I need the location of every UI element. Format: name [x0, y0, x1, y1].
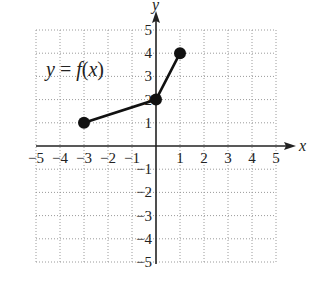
y-tick-label: 3 — [145, 68, 153, 84]
y-tick-label: 5 — [145, 22, 153, 38]
x-tick-label: −5 — [28, 150, 44, 166]
function-label: y = f(x) — [44, 58, 104, 81]
x-tick-label: −3 — [76, 150, 92, 166]
x-tick-label: 1 — [176, 150, 184, 166]
y-tick-label: −4 — [136, 231, 152, 247]
x-tick-label: −4 — [52, 150, 68, 166]
y-tick-label: −1 — [136, 161, 152, 177]
graph-figure: x y −5−4−3−2−112345 54321−1−2−3−4−5 y = … — [0, 0, 320, 284]
data-point — [78, 117, 90, 129]
x-axis-label: x — [298, 137, 306, 154]
x-tick-label: 2 — [200, 150, 208, 166]
y-tick-label: −5 — [136, 254, 152, 270]
x-tick-labels: −5−4−3−2−112345 — [28, 150, 280, 166]
y-axis-label: y — [150, 0, 160, 14]
x-tick-label: 3 — [224, 150, 232, 166]
y-tick-label: −2 — [136, 184, 152, 200]
x-tick-label: −2 — [100, 150, 116, 166]
y-tick-label: 4 — [145, 45, 153, 61]
x-tick-label: 5 — [272, 150, 280, 166]
coordinate-plane: x y −5−4−3−2−112345 54321−1−2−3−4−5 y = … — [0, 0, 320, 284]
data-point — [150, 94, 162, 106]
data-point — [174, 47, 186, 59]
y-tick-label: 1 — [145, 115, 153, 131]
y-tick-label: −3 — [136, 208, 152, 224]
x-tick-label: 4 — [248, 150, 256, 166]
